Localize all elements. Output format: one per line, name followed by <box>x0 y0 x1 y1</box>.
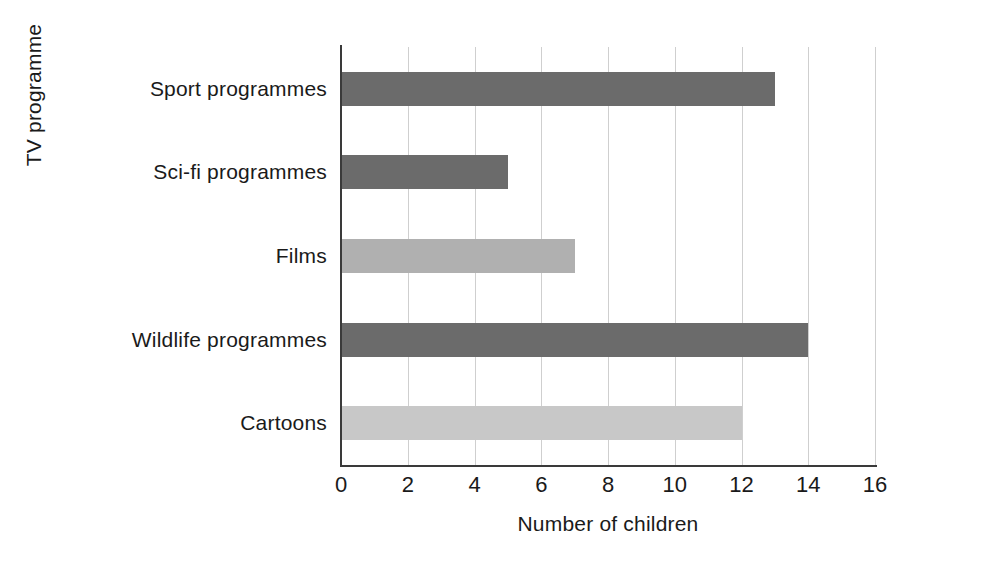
bar-chart: TV programme Sport programmesSci-fi prog… <box>0 0 985 570</box>
x-axis-tick-labels: 0246810121416 <box>341 472 875 508</box>
bar <box>341 155 508 189</box>
y-axis-tick-label: Sport programmes <box>150 72 327 106</box>
gridline-16 <box>875 47 876 465</box>
bar <box>341 239 575 273</box>
y-axis-tick-labels: Sport programmesSci-fi programmesFilmsWi… <box>60 47 335 465</box>
x-axis-title: Number of children <box>341 512 875 536</box>
x-axis-tick-label: 10 <box>645 472 705 498</box>
x-axis-line <box>340 465 877 467</box>
x-axis-tick-label: 8 <box>578 472 638 498</box>
y-axis-tick-label: Cartoons <box>240 406 327 440</box>
bar <box>341 323 808 357</box>
x-axis-tick-label: 2 <box>378 472 438 498</box>
bar-series <box>341 47 875 465</box>
x-axis-tick-label: 6 <box>511 472 571 498</box>
plot-area <box>341 47 875 465</box>
y-axis-title: TV programme <box>14 0 54 210</box>
y-axis-tick-label: Wildlife programmes <box>132 323 327 357</box>
x-axis-tick-label: 16 <box>845 472 905 498</box>
x-axis-tick-label: 14 <box>778 472 838 498</box>
bar <box>341 72 775 106</box>
bar <box>341 406 742 440</box>
x-axis-tick-label: 12 <box>712 472 772 498</box>
y-axis-tick-label: Films <box>276 239 327 273</box>
x-axis-tick-label: 4 <box>445 472 505 498</box>
y-axis-tick-label: Sci-fi programmes <box>153 155 327 189</box>
x-axis-tick-label: 0 <box>311 472 371 498</box>
y-axis-line <box>340 45 342 467</box>
